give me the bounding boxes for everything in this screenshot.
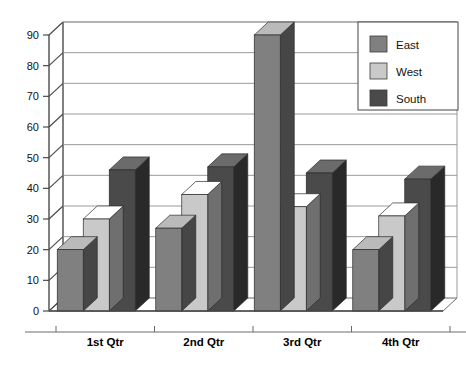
bar-east-1st-qtr <box>57 237 97 311</box>
bar-side-face <box>332 160 346 311</box>
bar-side-face <box>405 203 419 311</box>
y-tick-label: 90 <box>27 29 39 41</box>
bar-side-face <box>306 194 320 311</box>
chart-legend: EastWestSouth <box>358 22 458 110</box>
axis-depth-tick <box>49 175 63 188</box>
bar-front-face <box>254 35 280 311</box>
x-tick-label: 2nd Qtr <box>183 336 224 348</box>
bar-east-2nd-qtr <box>156 215 196 311</box>
y-tick-label: 20 <box>27 244 39 256</box>
axis-depth-tick <box>49 22 63 35</box>
axis-depth-tick <box>49 83 63 96</box>
y-tick-label: 60 <box>27 121 39 133</box>
bar-front-face <box>156 228 182 311</box>
bar-east-4th-qtr <box>353 237 393 311</box>
y-tick-label: 70 <box>27 90 39 102</box>
bar-side-face <box>182 215 196 311</box>
bar-east-3rd-qtr <box>254 22 294 311</box>
axis-depth-tick <box>49 206 63 219</box>
bar-side-face <box>234 154 248 311</box>
axis-depth-tick <box>49 114 63 127</box>
x-tick-label: 1st Qtr <box>87 336 125 348</box>
legend-swatch-east <box>370 36 387 52</box>
axis-depth-tick <box>49 53 63 66</box>
bar-side-face <box>208 181 222 311</box>
x-axis: 1st Qtr2nd Qtr3rd Qtr4th Qtr <box>25 311 466 348</box>
bar-side-face <box>280 22 294 311</box>
y-tick-label: 80 <box>27 60 39 72</box>
y-tick-label: 0 <box>33 305 39 317</box>
x-tick-label: 3rd Qtr <box>283 336 322 348</box>
legend-label-south: South <box>396 93 426 105</box>
chart-container: 0102030405060708090 1st Qtr2nd Qtr3rd Qt… <box>0 0 466 365</box>
legend-label-west: West <box>396 66 423 78</box>
axis-depth-tick <box>49 145 63 158</box>
bar-side-face <box>431 166 445 311</box>
y-tick-label: 50 <box>27 152 39 164</box>
legend-swatch-south <box>370 90 387 106</box>
y-tick-label: 30 <box>27 213 39 225</box>
y-tick-label: 10 <box>27 274 39 286</box>
bar-front-face <box>353 250 379 311</box>
y-tick-label: 40 <box>27 182 39 194</box>
bar-side-face <box>109 206 123 311</box>
bar-chart-3d: 0102030405060708090 1st Qtr2nd Qtr3rd Qt… <box>0 0 466 365</box>
x-tick-label: 4th Qtr <box>382 336 420 348</box>
bar-front-face <box>57 250 83 311</box>
bar-side-face <box>135 157 149 311</box>
legend-label-east: East <box>396 39 420 51</box>
legend-swatch-west <box>370 63 387 79</box>
